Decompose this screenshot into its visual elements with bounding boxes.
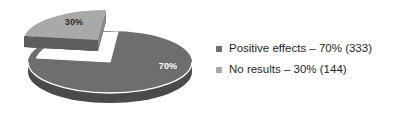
pie-slice-no-results: 30% [24, 9, 106, 51]
pie-data-label-positive-effects: 70% [159, 61, 178, 71]
legend-item-positive-effects[interactable]: Positive effects – 70% (333) [216, 38, 406, 59]
pie-chart-figure: 70% 30% [0, 0, 408, 117]
pie-chart-graphic: 70% 30% [0, 0, 212, 117]
legend-swatch-positive-effects-icon [216, 46, 222, 52]
legend-swatch-no-results-icon [216, 67, 222, 73]
legend-label-positive-effects: Positive effects – 70% (333) [229, 43, 372, 55]
legend-label-no-results: No results – 30% (144) [229, 64, 347, 76]
chart-legend: Positive effects – 70% (333) No results … [216, 38, 406, 80]
legend-item-no-results[interactable]: No results – 30% (144) [216, 59, 406, 80]
pie-data-label-no-results: 30% [65, 17, 84, 27]
pie-plot-area: 70% 30% [0, 0, 212, 117]
